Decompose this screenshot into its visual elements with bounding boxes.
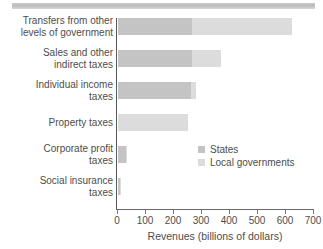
bar-segment-local-governments	[118, 114, 188, 131]
bar-segment-local-governments	[120, 178, 121, 195]
legend-item-local-governments: Local governments	[198, 156, 295, 169]
legend-swatch-states-icon	[198, 146, 205, 153]
bar-segment-local-governments	[191, 82, 195, 99]
x-axis-tick	[285, 210, 286, 214]
x-axis-tick-label: 700	[305, 215, 322, 226]
x-axis-tick	[313, 210, 314, 214]
bar-row	[0, 18, 323, 35]
bar-row	[0, 178, 323, 195]
x-axis-tick	[145, 210, 146, 214]
legend-swatch-local-governments-icon	[198, 159, 205, 166]
x-axis-tick	[173, 210, 174, 214]
x-axis-tick	[201, 210, 202, 214]
bar-row	[0, 114, 323, 131]
bar-row	[0, 50, 323, 67]
legend-label-local-governments: Local governments	[210, 157, 295, 168]
x-axis-tick-label: 200	[165, 215, 182, 226]
legend-label-states: States	[210, 144, 238, 155]
x-axis-tick	[257, 210, 258, 214]
x-axis-tick-label: 100	[137, 215, 154, 226]
chart-legend: States Local governments	[198, 143, 295, 169]
legend-item-states: States	[198, 143, 295, 156]
bar-row	[0, 82, 323, 99]
x-axis-tick-label: 400	[221, 215, 238, 226]
x-axis-title: Revenues (billions of dollars)	[117, 230, 313, 242]
bar-segment-states	[118, 18, 192, 35]
x-axis-tick-label: 300	[193, 215, 210, 226]
bar-segment-local-governments	[126, 146, 128, 163]
bar-segment-states	[118, 50, 192, 67]
top-decorative-rule	[12, 3, 315, 9]
bar-segment-states	[118, 146, 126, 163]
x-axis-tick	[229, 210, 230, 214]
bar-segment-states	[118, 82, 191, 99]
x-axis-tick	[117, 210, 118, 214]
bar-segment-local-governments	[192, 50, 221, 67]
bar-segment-local-governments	[192, 18, 292, 35]
x-axis-tick-label: 0	[114, 215, 120, 226]
stacked-bar-chart: 0100200300400500600700 Transfers from ot…	[0, 12, 323, 249]
x-axis-tick-label: 500	[249, 215, 266, 226]
x-axis-tick-label: 600	[277, 215, 294, 226]
